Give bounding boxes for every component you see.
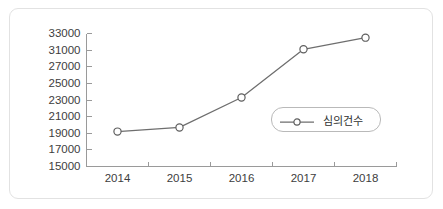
y-tick-label: 15000 [49, 160, 81, 172]
line-chart-figure: 3300031000270002500023000210001900017000… [0, 0, 443, 209]
legend-label: 심의건수 [323, 112, 363, 128]
y-tick-labels: 3300031000270002500023000210001900017000… [49, 27, 81, 172]
data-point-marker[interactable] [238, 94, 245, 101]
y-axis [87, 34, 92, 167]
data-point-marker[interactable] [114, 128, 121, 135]
y-tick-label: 23000 [49, 94, 81, 106]
x-axis [87, 162, 397, 167]
y-tick-label: 33000 [49, 27, 81, 39]
x-tick-label: 2018 [353, 172, 379, 184]
y-tick-label: 17000 [49, 143, 81, 155]
x-tick-label: 2016 [229, 172, 255, 184]
chart-plot-area: 3300031000270002500023000210001900017000… [0, 0, 443, 209]
y-tick-label: 19000 [49, 127, 81, 139]
x-tick-label: 2017 [291, 172, 317, 184]
x-tick-label: 2015 [167, 172, 193, 184]
data-point-marker[interactable] [300, 46, 307, 53]
data-point-marker[interactable] [176, 124, 183, 131]
x-tick-labels: 20142015201620172018 [105, 172, 379, 184]
y-tick-label: 21000 [49, 110, 81, 122]
data-point-marker[interactable] [362, 34, 369, 41]
x-tick-label: 2014 [105, 172, 131, 184]
legend-line-marker-icon [280, 114, 314, 126]
chart-legend[interactable]: 심의건수 [271, 107, 381, 132]
y-tick-label: 27000 [49, 60, 81, 72]
y-tick-label: 31000 [49, 44, 81, 56]
y-tick-label: 25000 [49, 77, 81, 89]
